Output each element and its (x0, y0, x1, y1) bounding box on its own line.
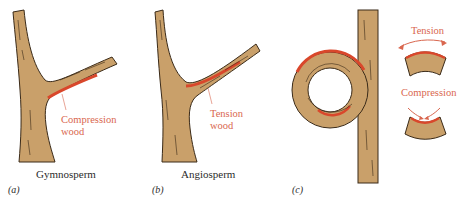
panel-label-a: (a) (8, 184, 20, 195)
panel-label-c: (c) (292, 184, 303, 195)
compression-wood-label-line2: wood (61, 126, 116, 138)
gymnosperm-caption: Gymnosperm (36, 168, 96, 180)
compression-segment-illustration (405, 108, 446, 139)
tension-wood-label: Tension wood (210, 108, 243, 132)
coiled-stem-illustration (292, 10, 378, 183)
tension-wood-label-line2: wood (210, 120, 243, 132)
angiosperm-caption: Angiosperm (181, 168, 235, 180)
angiosperm-branch-illustration (155, 10, 260, 162)
compression-wood-label-line1: Compression (61, 114, 116, 126)
compression-wood-label: Compression wood (61, 114, 116, 138)
tension-wood-label-line1: Tension (210, 108, 243, 120)
compression-label: Compression (401, 87, 456, 99)
panel-label-b: (b) (152, 184, 164, 195)
tension-label: Tension (411, 25, 444, 37)
gymnosperm-branch-illustration (13, 10, 117, 162)
tension-segment-illustration (398, 40, 447, 76)
